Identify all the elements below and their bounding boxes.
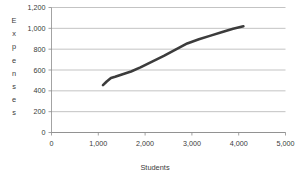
y-tick-label: 0	[42, 128, 46, 137]
x-axis-title: Students	[140, 163, 169, 172]
y-axis-title-letter: s	[12, 80, 16, 93]
y-axis-title-letter: x	[12, 27, 16, 40]
series-line	[103, 26, 243, 85]
y-tick-label: 400	[34, 86, 46, 95]
expenses-vs-students-chart: 02004006008001,0001,200 01,0002,0003,000…	[0, 0, 297, 180]
x-tick-label: 1,000	[89, 139, 107, 148]
y-axis-title-letter: s	[12, 106, 16, 119]
y-axis-title: Expenses	[6, 14, 22, 120]
y-axis-title-letter: e	[12, 93, 16, 106]
y-tick-label: 800	[34, 45, 46, 54]
y-tick-marks	[49, 8, 52, 133]
chart-canvas: 02004006008001,0001,200 01,0002,0003,000…	[0, 0, 297, 180]
y-axis-title-letter: n	[12, 67, 16, 80]
y-axis-title-letter: E	[12, 14, 17, 27]
x-tick-labels: 01,0002,0003,0004,0005,000	[50, 139, 295, 148]
y-axis-title-letter: p	[12, 40, 16, 53]
y-tick-label: 1,000	[28, 24, 46, 33]
x-tick-label: 2,000	[136, 139, 154, 148]
x-tick-label: 4,000	[230, 139, 248, 148]
y-tick-label: 600	[34, 66, 46, 75]
y-tick-labels: 02004006008001,0001,200	[28, 3, 46, 137]
x-tick-label: 5,000	[277, 139, 295, 148]
gridlines	[52, 8, 286, 133]
y-tick-label: 1,200	[28, 3, 46, 12]
x-tick-label: 0	[50, 139, 54, 148]
y-tick-label: 200	[34, 107, 46, 116]
data-series-line	[103, 26, 243, 85]
y-axis-title-letter: e	[12, 54, 16, 67]
x-tick-label: 3,000	[183, 139, 201, 148]
